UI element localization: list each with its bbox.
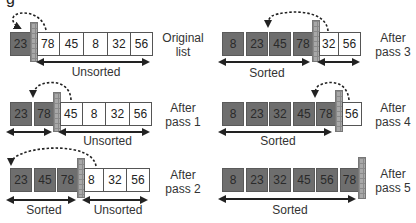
arrows-overlay <box>0 0 416 223</box>
